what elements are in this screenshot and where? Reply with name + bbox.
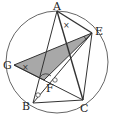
- segment-EC: [83, 33, 92, 100]
- label-E: E: [95, 25, 103, 38]
- equal-mark-2: [36, 93, 40, 97]
- label-G: G: [3, 59, 12, 72]
- label-C: C: [80, 102, 88, 115]
- label-A: A: [52, 0, 62, 13]
- angle-mark-G: ×: [22, 63, 29, 72]
- label-B: B: [22, 100, 30, 113]
- segment-BC: [33, 100, 83, 103]
- geometry-diagram: × × A E G F B C: [0, 0, 115, 120]
- label-F: F: [46, 82, 54, 95]
- shaded-triangle-GEF: [14, 33, 92, 80]
- angle-mark-A: ×: [63, 21, 70, 30]
